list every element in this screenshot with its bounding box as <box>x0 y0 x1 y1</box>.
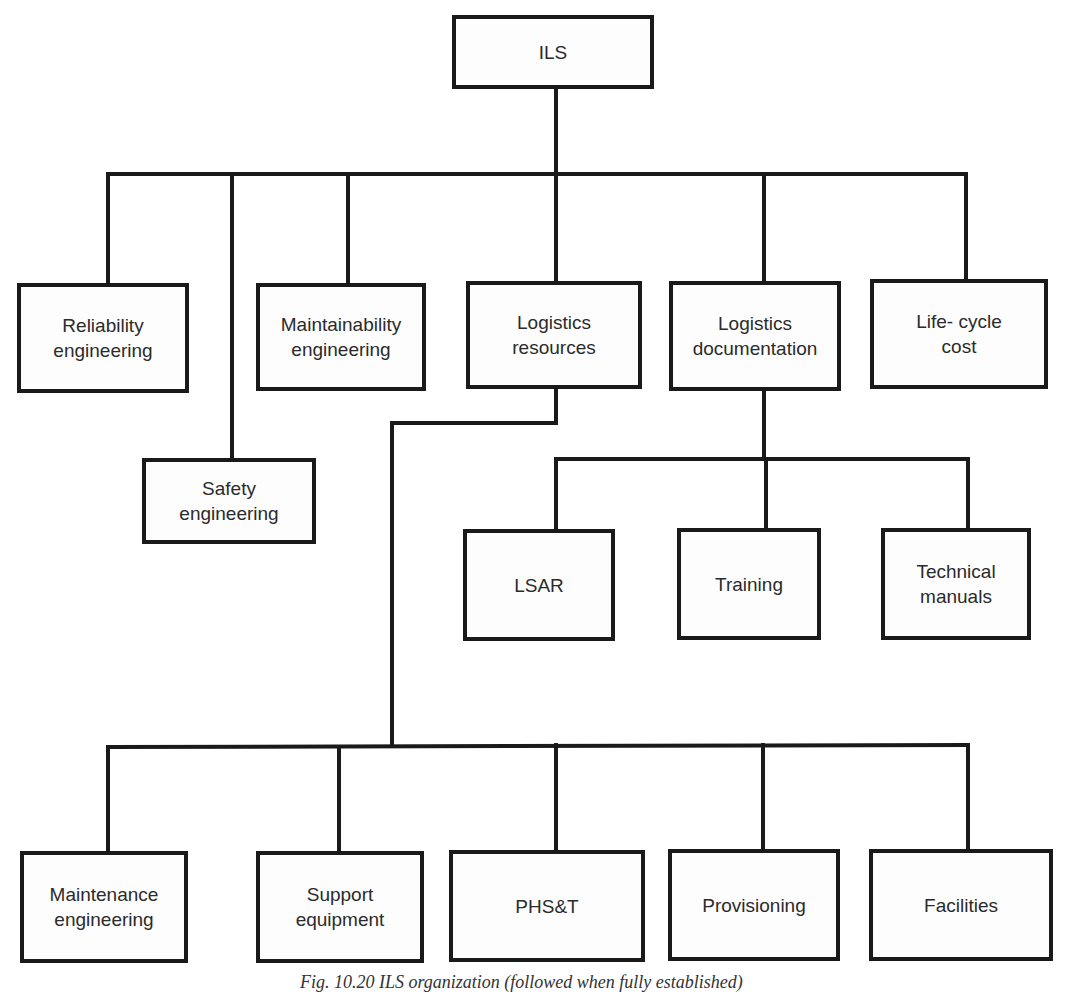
node-maintenance-engineering: Maintenance engineering <box>20 851 188 963</box>
node-support-equipment: Support equipment <box>256 851 424 963</box>
node-provisioning: Provisioning <box>668 849 840 961</box>
node-ils: ILS <box>452 15 654 89</box>
node-logistics-documentation: Logistics documentation <box>669 281 841 391</box>
node-training: Training <box>677 528 821 640</box>
node-lsar: LSAR <box>463 529 615 641</box>
node-facilities: Facilities <box>869 849 1053 961</box>
node-phst: PHS&T <box>449 850 645 962</box>
node-reliability-engineering: Reliability engineering <box>17 283 189 393</box>
node-life-cycle-cost: Life- cycle cost <box>870 279 1048 389</box>
figure-caption: Fig. 10.20 ILS organization (followed wh… <box>300 972 800 993</box>
node-technical-manuals: Technical manuals <box>881 528 1031 640</box>
node-logistics-resources: Logistics resources <box>466 281 642 389</box>
node-maintainability-engineering: Maintainability engineering <box>256 283 426 391</box>
node-safety-engineering: Safety engineering <box>142 458 316 544</box>
